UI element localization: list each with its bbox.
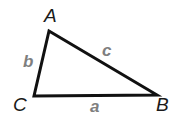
vertex-label-c: C (13, 94, 27, 115)
side-label-b: b (23, 52, 33, 71)
side-label-a: a (90, 97, 99, 116)
triangle-diagram: A B C a b c (0, 0, 177, 129)
triangle-abc (34, 31, 157, 96)
vertex-label-b: B (156, 94, 169, 115)
vertex-label-a: A (43, 5, 57, 26)
triangle-canvas: A B C a b c (0, 0, 177, 129)
side-label-c: c (102, 41, 112, 60)
